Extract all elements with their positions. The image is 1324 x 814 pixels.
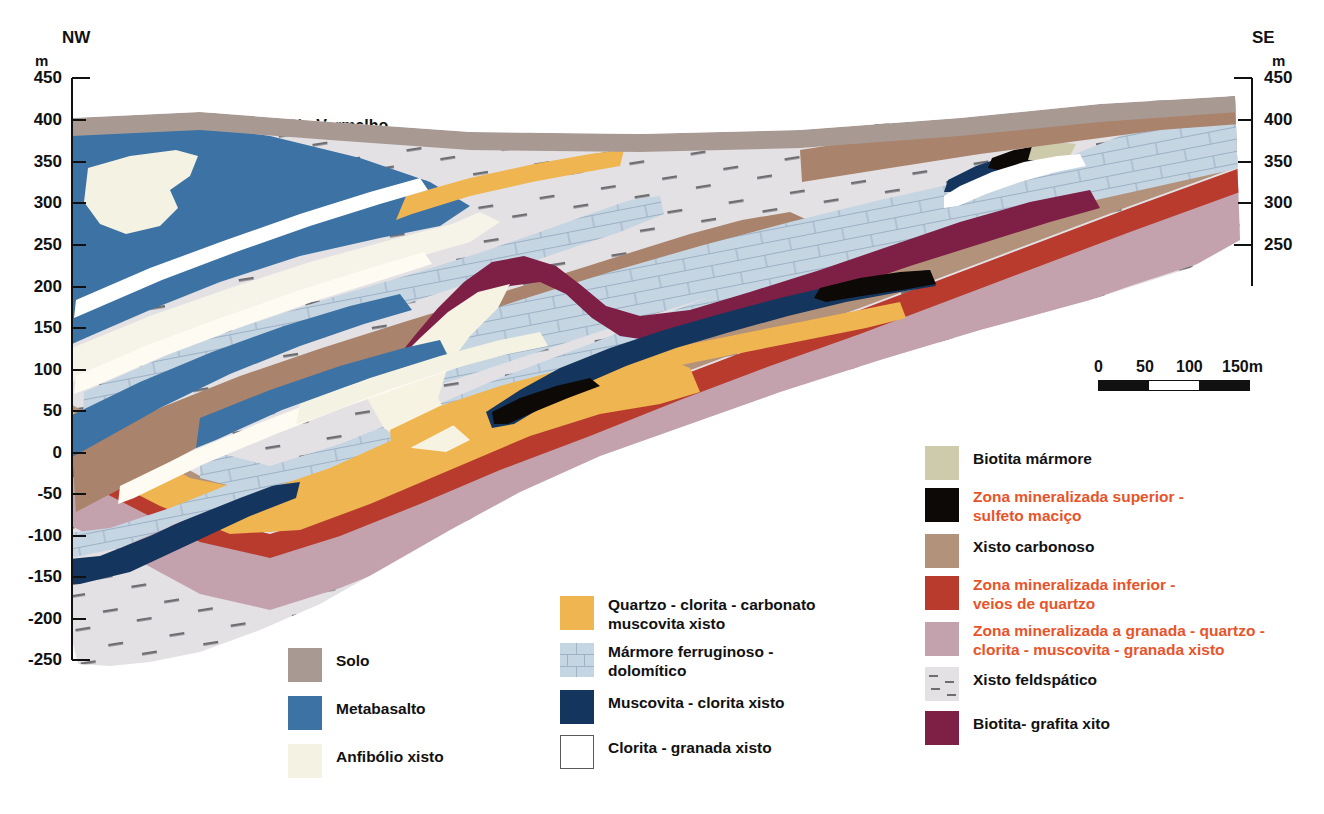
left-tick-350: 350 bbox=[0, 152, 62, 172]
legend-column-middle: Quartzo - clorita - carbonato muscovita … bbox=[560, 596, 860, 775]
left-tick-0: 0 bbox=[0, 443, 62, 463]
right-tick-300: 300 bbox=[1264, 193, 1292, 213]
left-tick-neg200: -200 bbox=[0, 609, 62, 629]
legend-item-clorita-granada-xisto[interactable]: Clorita - granada xisto bbox=[560, 735, 860, 769]
legend-swatch-marmore-ferruginoso bbox=[560, 643, 594, 677]
scale-segment-3 bbox=[1199, 381, 1249, 390]
legend-label-marmore-line1: Mármore ferruginoso - bbox=[608, 643, 773, 662]
left-tick-200: 200 bbox=[0, 277, 62, 297]
legend-item-muscovita-clorita-xisto[interactable]: Muscovita - clorita xisto bbox=[560, 690, 860, 724]
right-tick-450: 450 bbox=[1264, 68, 1292, 88]
legend-label-biotita-grafita-xito: Biotita- grafita xito bbox=[973, 711, 1110, 734]
legend-item-marmore-ferruginoso[interactable]: Mármore ferruginoso - dolomítico bbox=[560, 643, 860, 681]
legend-swatch-anfibolio-xisto bbox=[288, 744, 322, 778]
legend-swatch-biotita-grafita-xito bbox=[925, 711, 959, 745]
legend-swatch-solo bbox=[288, 648, 322, 682]
legend-label-metabasalto: Metabasalto bbox=[336, 696, 426, 719]
legend-label-sulfeto-line2: sulfeto maciço bbox=[973, 507, 1184, 526]
legend-item-xisto-feldspatico[interactable]: Xisto feldspático bbox=[925, 667, 1324, 701]
left-tick-neg100: -100 bbox=[0, 526, 62, 546]
legend-label-marmore-line2: dolomítico bbox=[608, 662, 773, 681]
scale-label-50: 50 bbox=[1136, 358, 1154, 376]
legend-swatch-xisto-carbonoso bbox=[925, 534, 959, 568]
scale-bar-segments bbox=[1098, 380, 1250, 391]
legend-label-clorita-granada-xisto: Clorita - granada xisto bbox=[608, 735, 772, 758]
legend-swatch-xisto-feldspatico bbox=[925, 667, 959, 701]
left-tick-250: 250 bbox=[0, 235, 62, 255]
right-tick-400: 400 bbox=[1264, 110, 1292, 130]
left-tick-100: 100 bbox=[0, 360, 62, 380]
scale-segment-1 bbox=[1099, 381, 1149, 390]
right-tick-350: 350 bbox=[1264, 152, 1292, 172]
legend-column-left: Solo Metabasalto Anfibólio xisto bbox=[288, 648, 528, 784]
left-tick-neg250: -250 bbox=[0, 650, 62, 670]
left-tick-450: 450 bbox=[0, 68, 62, 88]
legend-label-xisto-carbonoso: Xisto carbonoso bbox=[973, 534, 1094, 557]
legend-item-zona-granada[interactable]: Zona mineralizada a granada - quartzo - … bbox=[925, 622, 1324, 660]
scale-bar: 0 50 100 150m bbox=[1098, 358, 1250, 391]
left-tick-50: 50 bbox=[0, 401, 62, 421]
left-tick-400: 400 bbox=[0, 110, 62, 130]
legend-column-right: Biotita mármore Zona mineralizada superi… bbox=[925, 446, 1324, 751]
legend-label-quartzo-line1: Quartzo - clorita - carbonato bbox=[608, 596, 816, 615]
legend-swatch-sulfeto-macico bbox=[925, 488, 959, 522]
legend-swatch-quartzo-clorita-carbonato bbox=[560, 596, 594, 630]
legend-label-veios-line1: Zona mineralizada inferior - bbox=[973, 576, 1175, 595]
right-tick-250: 250 bbox=[1264, 235, 1292, 255]
left-tick-300: 300 bbox=[0, 193, 62, 213]
scale-label-150: 150m bbox=[1222, 358, 1263, 376]
legend-label-zona-granada-line1: Zona mineralizada a granada - quartzo - bbox=[973, 622, 1265, 641]
legend-item-solo[interactable]: Solo bbox=[288, 648, 528, 682]
cross-section-figure: NW SE m m Rio Vermelho bbox=[0, 0, 1324, 814]
legend-item-metabasalto[interactable]: Metabasalto bbox=[288, 696, 528, 730]
scale-bar-labels: 0 50 100 150m bbox=[1098, 358, 1250, 378]
legend-item-quartzo-clorita-carbonato[interactable]: Quartzo - clorita - carbonato muscovita … bbox=[560, 596, 860, 634]
legend-swatch-zona-granada bbox=[925, 622, 959, 656]
legend-item-anfibolio-xisto[interactable]: Anfibólio xisto bbox=[288, 744, 528, 778]
legend-item-veios-de-quartzo[interactable]: Zona mineralizada inferior - veios de qu… bbox=[925, 576, 1324, 614]
legend-label-xisto-feldspatico: Xisto feldspático bbox=[973, 667, 1097, 690]
legend-label-veios-line2: veios de quartzo bbox=[973, 595, 1175, 614]
legend-item-xisto-carbonoso[interactable]: Xisto carbonoso bbox=[925, 534, 1324, 568]
legend-label-muscovita-clorita-xisto: Muscovita - clorita xisto bbox=[608, 690, 785, 713]
legend-item-biotita-marmore[interactable]: Biotita mármore bbox=[925, 446, 1324, 480]
legend-label-quartzo-line2: muscovita xisto bbox=[608, 615, 816, 634]
scale-label-0: 0 bbox=[1094, 358, 1103, 376]
left-tick-neg50: -50 bbox=[0, 484, 62, 504]
legend-swatch-metabasalto bbox=[288, 696, 322, 730]
scale-segment-2 bbox=[1149, 381, 1199, 390]
left-tick-150: 150 bbox=[0, 318, 62, 338]
legend-label-zona-granada-line2: clorita - muscovita - granada xisto bbox=[973, 641, 1265, 660]
legend-item-biotita-grafita-xito[interactable]: Biotita- grafita xito bbox=[925, 711, 1324, 745]
legend-label-sulfeto-line1: Zona mineralizada superior - bbox=[973, 488, 1184, 507]
legend-item-sulfeto-macico[interactable]: Zona mineralizada superior - sulfeto mac… bbox=[925, 488, 1324, 526]
legend-swatch-veios-de-quartzo bbox=[925, 576, 959, 610]
left-tick-neg150: -150 bbox=[0, 567, 62, 587]
scale-label-100: 100 bbox=[1176, 358, 1203, 376]
legend-swatch-muscovita-clorita-xisto bbox=[560, 690, 594, 724]
legend-swatch-biotita-marmore bbox=[925, 446, 959, 480]
legend-label-biotita-marmore: Biotita mármore bbox=[973, 446, 1092, 469]
legend-label-anfibolio-xisto: Anfibólio xisto bbox=[336, 744, 444, 767]
legend-label-solo: Solo bbox=[336, 648, 370, 671]
legend-swatch-clorita-granada-xisto bbox=[560, 735, 594, 769]
